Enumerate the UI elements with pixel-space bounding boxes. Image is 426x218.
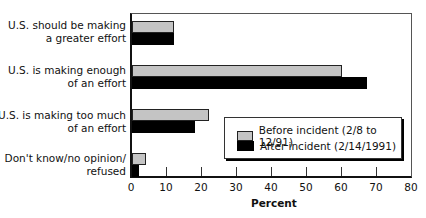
x-tick <box>271 167 272 176</box>
x-tick-label: 70 <box>366 181 386 193</box>
x-tick-label: 60 <box>331 181 351 193</box>
legend: Before incident (2/8 to 12/91) After inc… <box>224 117 402 159</box>
x-tick <box>341 167 342 176</box>
bar-before <box>132 153 146 165</box>
x-tick-label: 40 <box>261 181 281 193</box>
x-axis-title: Percent <box>251 197 297 209</box>
x-tick-label: 50 <box>296 181 316 193</box>
category-label-enough-effort: U.S. is making enoughof an effort <box>0 64 126 90</box>
x-tick <box>306 167 307 176</box>
label-line: of an effort <box>0 122 126 135</box>
label-line: refused <box>0 165 126 178</box>
bar-before <box>132 65 342 77</box>
category-label-greater-effort: U.S. should be makinga greater effort <box>0 19 126 45</box>
x-tick-label: 10 <box>156 181 176 193</box>
bar-after <box>132 165 139 177</box>
bar-before <box>132 109 209 121</box>
bar-after <box>132 121 195 133</box>
x-tick-label: 80 <box>401 181 421 193</box>
bar-after <box>132 77 367 89</box>
category-label-dont-know: Don't know/no opinion/refused <box>0 152 126 178</box>
x-tick-label: 0 <box>121 181 141 193</box>
x-tick <box>166 167 167 176</box>
label-line: U.S. is making enough <box>0 64 126 77</box>
legend-item-after: After incident (2/14/1991) <box>237 140 396 152</box>
legend-text: After incident (2/14/1991) <box>260 140 396 152</box>
bar-before <box>132 21 174 33</box>
x-tick-label: 20 <box>191 181 211 193</box>
label-line: Don't know/no opinion/ <box>0 152 126 165</box>
bar-after <box>132 33 174 45</box>
legend-swatch <box>237 141 254 151</box>
x-tick-label: 30 <box>226 181 246 193</box>
label-line: U.S. should be making <box>0 19 126 32</box>
label-line: U.S. is making too much <box>0 109 126 122</box>
x-tick <box>201 167 202 176</box>
category-label-too-much-effort: U.S. is making too muchof an effort <box>0 109 126 135</box>
label-line: a greater effort <box>0 32 126 45</box>
x-tick <box>236 167 237 176</box>
x-tick <box>376 167 377 176</box>
label-line: of an effort <box>0 77 126 90</box>
